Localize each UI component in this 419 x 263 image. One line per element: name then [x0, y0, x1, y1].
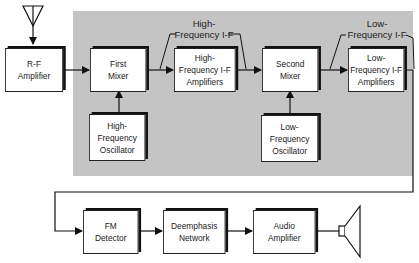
- block-label: Deemphasis Network: [171, 220, 217, 244]
- block-second-mixer: Second Mixer: [262, 48, 318, 92]
- block-lf-if-amplifiers: Low- Frequency I-F Amplifiers: [348, 48, 404, 92]
- block-label: Low- Frequency I-F Amplifiers: [350, 52, 402, 88]
- block-deemphasis-network: Deemphasis Network: [163, 210, 225, 254]
- block-label: Low- Frequency Oscillator: [270, 121, 310, 157]
- block-first-mixer: First Mixer: [90, 48, 146, 92]
- block-label: First Mixer: [108, 58, 128, 82]
- block-label: Audio Amplifier: [268, 220, 301, 244]
- antenna-icon: [23, 6, 43, 44]
- block-audio-amplifier: Audio Amplifier: [253, 210, 315, 254]
- block-label: High- Frequency I-F Amplifiers: [179, 52, 231, 88]
- block-rf-amplifier: R-F Amplifier: [5, 48, 63, 92]
- block-lf-oscillator: Low- Frequency Oscillator: [261, 115, 318, 162]
- block-label: High- Frequency Oscillator: [97, 120, 137, 156]
- speaker-icon: [339, 206, 360, 257]
- block-label: Second Mixer: [276, 58, 304, 82]
- block-label: R-F Amplifier: [18, 58, 51, 82]
- block-fm-detector: FM Detector: [83, 210, 138, 254]
- block-hf-if-amplifiers: High- Frequency I-F Amplifiers: [174, 48, 236, 92]
- block-hf-oscillator: High- Frequency Oscillator: [89, 114, 145, 161]
- hf-if-annotation: High- Frequency I-F: [174, 18, 234, 40]
- lf-if-annotation: Low- Frequency I-F: [345, 18, 409, 40]
- block-label: FM Detector: [95, 220, 127, 244]
